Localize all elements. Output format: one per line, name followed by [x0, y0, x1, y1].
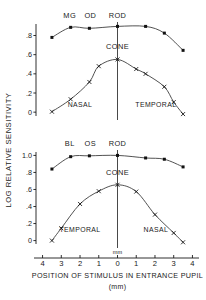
- datapoint-bottom-cone-8: [181, 240, 185, 244]
- datapoint-top-cone-6: [144, 72, 148, 76]
- datapoint-top-rod-5: [163, 32, 166, 35]
- datapoint-top-cone-7: [162, 85, 166, 89]
- x-tick-label-8: 4: [190, 259, 194, 268]
- datapoint-bottom-cone-2: [78, 202, 82, 206]
- datapoint-top-rod-3: [116, 25, 119, 28]
- datapoint-bottom-cone-7: [172, 231, 176, 235]
- x-axis: 432101234: [34, 255, 199, 268]
- x-tick-label-3: 1: [97, 259, 101, 268]
- y-tick-label-bottom-3: .6: [26, 185, 32, 194]
- y-tick-label-top-0: 0: [28, 108, 32, 117]
- x-axis-title: POSITION OF STIMULUS IN ENTRANCE PUPIL: [32, 271, 203, 280]
- datapoint-bottom-cone-5: [134, 190, 138, 194]
- y-tick-label-top-2: .4: [26, 69, 32, 78]
- plot-canvas: 0.2.4.6.8MGODRODCONENASALTEMPORAL0.2.4.6…: [0, 0, 206, 300]
- x-tick-label-4: 0: [115, 259, 119, 268]
- datapoint-bottom-rod-1: [69, 155, 72, 158]
- datapoint-top-cone-5: [134, 67, 138, 71]
- x-tick-label-2: 2: [78, 259, 82, 268]
- panel-eye-label-top: OD: [84, 11, 96, 20]
- datapoint-bottom-rod-4: [144, 156, 147, 159]
- datapoint-top-rod-6: [182, 49, 185, 52]
- right-region-label-bottom: NASAL: [144, 226, 169, 233]
- rod-annotation-top: ROD: [109, 11, 127, 20]
- datapoint-top-cone-3: [97, 64, 101, 68]
- y-tick-label-bottom-2: .4: [26, 202, 32, 211]
- datapoint-top-cone-9: [181, 112, 185, 116]
- y-axis-title: LOG RELATIVE SENSITIVITY: [4, 93, 13, 208]
- datapoint-bottom-rod-3: [116, 154, 119, 157]
- datapoint-top-cone-2: [87, 80, 91, 84]
- datapoint-bottom-cone-0: [50, 239, 54, 243]
- right-region-label-top: TEMPORAL: [135, 101, 176, 108]
- y-tick-label-bottom-5: 1.0: [22, 151, 32, 160]
- panel-subject-label-top: MG: [63, 11, 76, 20]
- x-tick-label-1: 3: [59, 259, 63, 268]
- rod-annotation-bottom: ROD: [109, 139, 127, 148]
- datapoint-top-cone-0: [50, 110, 54, 114]
- left-region-label-top: NASAL: [68, 101, 93, 108]
- datapoint-bottom-rod-6: [182, 165, 185, 168]
- cone-annotation-bottom: CONE: [106, 168, 129, 177]
- left-region-label-bottom: TEMPORAL: [59, 226, 100, 233]
- datapoint-top-rod-2: [88, 27, 91, 30]
- datapoint-bottom-rod-2: [88, 154, 91, 157]
- datapoint-bottom-cone-3: [97, 189, 101, 193]
- datapoint-bottom-rod-0: [50, 168, 53, 171]
- x-axis-units: (mm): [109, 283, 127, 291]
- panel-bottom: 0.2.4.6.81.0: [22, 150, 185, 248]
- y-tick-label-bottom-1: .2: [26, 219, 32, 228]
- y-tick-label-top-1: .2: [26, 89, 32, 98]
- datapoint-top-rod-4: [144, 25, 147, 28]
- y-tick-label-bottom-0: 0: [28, 236, 32, 245]
- panel-eye-label-bottom: OS: [85, 139, 96, 148]
- cone-annotation-top: CONE: [106, 42, 129, 51]
- y-tick-label-top-3: .6: [26, 50, 32, 59]
- datapoint-bottom-rod-5: [163, 158, 166, 161]
- datapoint-top-rod-1: [69, 26, 72, 29]
- x-tick-label-6: 2: [153, 259, 157, 268]
- datapoint-bottom-cone-6: [153, 213, 157, 217]
- center-unit-label: mm: [113, 249, 123, 255]
- x-tick-label-0: 4: [40, 259, 44, 268]
- y-tick-label-top-4: .8: [26, 31, 32, 40]
- y-tick-label-bottom-4: .8: [26, 168, 32, 177]
- figure-stiles-crawford: 0.2.4.6.8MGODRODCONENASALTEMPORAL0.2.4.6…: [0, 0, 206, 300]
- x-tick-label-7: 3: [172, 259, 176, 268]
- x-tick-label-5: 1: [134, 259, 138, 268]
- panel-subject-label-bottom: BL: [65, 139, 75, 148]
- datapoint-top-rod-0: [50, 36, 53, 39]
